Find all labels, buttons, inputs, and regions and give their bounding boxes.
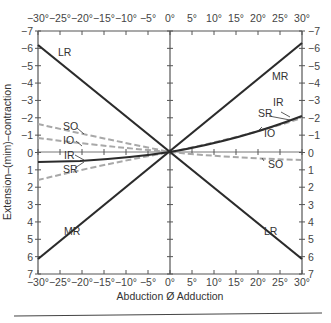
y-tick-label-right: 2 (308, 181, 314, 193)
x-tick-label-bottom: 15° (228, 276, 244, 288)
y-tick-label-right: 7 (308, 268, 314, 280)
x-tick-label-top: 10° (206, 12, 222, 24)
y-tick-label-right: 3 (308, 199, 314, 211)
y-tick-label-right: 4 (308, 216, 314, 228)
y-tick-label-left: 2 (27, 181, 33, 193)
label-so-left: SO (63, 120, 78, 132)
muscle-action-chart: −30°−30°−25°−25°−20°−20°−15°−15°−10°−10°… (0, 0, 331, 323)
label-so-right: SO (268, 158, 283, 170)
label-sr-left: SR (63, 163, 78, 175)
label-mr-bottom: MR (64, 225, 81, 237)
y-tick-label-right: 5 (308, 233, 314, 245)
x-tick-label-bottom: 10° (206, 276, 222, 288)
x-tick-label-top: 25° (272, 12, 288, 24)
y-tick-label-right: −1 (308, 129, 320, 141)
series-so-left (38, 124, 170, 152)
series-labels: LR MR SO IO IR SR SR IR IO SO MR LR (58, 46, 289, 237)
x-tick-label-top: −25° (49, 12, 71, 24)
y-tick-label-left: −2 (21, 112, 33, 124)
label-sr-right: SR (258, 107, 273, 119)
label-io-right: IO (264, 127, 275, 139)
x-tick-label-bottom: 20° (250, 276, 266, 288)
y-tick-label-right: 6 (308, 251, 314, 263)
y-tick-label-right: −6 (308, 42, 320, 54)
y-tick-label-left: 4 (27, 216, 33, 228)
y-tick-label-right: −7 (308, 25, 320, 37)
y-tick-label-left: 1 (27, 164, 33, 176)
x-tick-label-top: 20° (250, 12, 266, 24)
label-lr-bottom: LR (264, 225, 278, 237)
x-tick-label-top: 0° (165, 12, 175, 24)
y-axis-title: Extension–(mim)–contraction (1, 84, 13, 220)
x-tick-label-top: 30° (294, 12, 310, 24)
x-tick-label-bottom: 5° (187, 276, 197, 288)
x-tick-label-top: −5° (140, 12, 156, 24)
x-tick-label-top: −30° (27, 12, 49, 24)
x-axis-title: Abduction Ø Adduction (117, 290, 224, 302)
x-tick-label-top: −10° (115, 12, 137, 24)
x-tick-label-top: 5° (187, 12, 197, 24)
bottom-divider (14, 313, 322, 316)
label-ir-left: IR (64, 149, 75, 161)
label-ir-right: IR (273, 96, 284, 108)
label-mr-top: MR (272, 70, 289, 82)
x-tick-label-top: −20° (71, 12, 93, 24)
y-tick-label-left: 6 (27, 251, 33, 263)
y-tick-label-left: −6 (21, 42, 33, 54)
x-tick-label-top: 15° (228, 12, 244, 24)
x-tick-label-bottom: 0° (165, 276, 175, 288)
y-tick-label-left: −5 (21, 60, 33, 72)
y-tick-label-left: −3 (21, 94, 33, 106)
x-tick-label-top: −15° (93, 12, 115, 24)
x-tick-label-bottom: −5° (140, 276, 156, 288)
x-tick-label-bottom: −20° (71, 276, 93, 288)
y-tick-label-left: 0 (27, 147, 33, 159)
y-tick-label-right: 0 (308, 147, 314, 159)
y-tick-label-left: 7 (27, 268, 33, 280)
y-tick-label-right: −5 (308, 60, 320, 72)
x-tick-label-bottom: −15° (93, 276, 115, 288)
y-tick-label-right: 1 (308, 164, 314, 176)
y-tick-label-right: −3 (308, 94, 320, 106)
y-tick-label-right: −2 (308, 112, 320, 124)
y-tick-label-right: −4 (308, 77, 320, 89)
label-io-left: IO (63, 134, 74, 146)
x-tick-label-bottom: −10° (115, 276, 137, 288)
y-tick-label-left: 3 (27, 199, 33, 211)
x-tick-label-bottom: 25° (272, 276, 288, 288)
y-tick-label-left: −7 (21, 25, 33, 37)
x-tick-label-bottom: −25° (49, 276, 71, 288)
label-lr-top: LR (58, 46, 72, 58)
y-tick-label-left: −4 (21, 77, 33, 89)
y-tick-label-left: 5 (27, 233, 33, 245)
y-tick-label-left: −1 (21, 129, 33, 141)
